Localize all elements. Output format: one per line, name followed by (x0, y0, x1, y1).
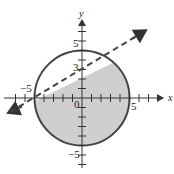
graph-figure: x y −5 5 5 3 −5 0 (0, 0, 174, 174)
label-y-pos3: 3 (73, 61, 79, 73)
label-origin: 0 (74, 98, 80, 110)
x-axis-label: x (167, 92, 173, 103)
label-x-neg5: −5 (20, 82, 32, 94)
label-x-pos5: 5 (131, 100, 137, 112)
label-y-neg5: −5 (68, 148, 80, 160)
y-axis-label: y (78, 8, 84, 19)
label-y-pos5: 5 (73, 37, 79, 49)
